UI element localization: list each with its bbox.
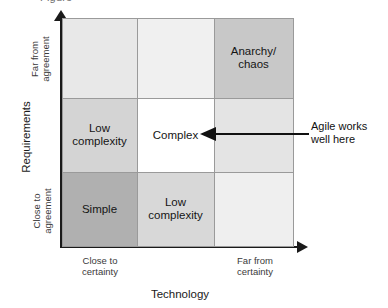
- matrix-cell-low-complexity-bottom: Lowcomplexity: [137, 172, 215, 247]
- matrix-cell-label: Lowcomplexity: [148, 196, 202, 222]
- clipped-figure-caption: Figure: [40, 0, 72, 3]
- matrix-cell-simple: Simple: [62, 172, 138, 247]
- matrix-cell-label: Lowcomplexity: [72, 122, 126, 148]
- matrix-grid: Anarchy/chaos Lowcomplexity Complex Simp…: [62, 18, 293, 246]
- matrix-cell: [62, 18, 138, 99]
- callout-note-text: Agile workswell here: [311, 120, 367, 146]
- y-axis-high-label: Far fromagreement: [29, 16, 51, 102]
- matrix-cell-label: Anarchy/chaos: [231, 45, 276, 71]
- matrix-cell-label: Simple: [82, 203, 117, 216]
- matrix-cell-low-complexity-left: Lowcomplexity: [62, 98, 138, 173]
- stacey-matrix-figure: Figure Anarchy/chaos Lowcomplexity Compl…: [0, 0, 388, 308]
- callout-arrow-head-icon: [200, 127, 216, 141]
- x-axis-title: Technology: [60, 288, 300, 300]
- matrix-cell: [214, 172, 294, 247]
- matrix-cell-label: Complex: [153, 129, 198, 142]
- x-axis-low-label: Close tocertainty: [60, 255, 140, 277]
- callout-arrow-shaft: [213, 133, 309, 135]
- y-axis-title: Requirements: [20, 82, 32, 192]
- matrix-cell: [214, 98, 294, 173]
- matrix-cell: [137, 18, 215, 99]
- x-axis-arrow-icon: [297, 241, 308, 253]
- x-axis-high-label: Far fromcertainty: [215, 255, 295, 277]
- matrix-cell-anarchy-chaos: Anarchy/chaos: [214, 18, 294, 99]
- y-axis-low-label: Close toagreement: [31, 168, 53, 254]
